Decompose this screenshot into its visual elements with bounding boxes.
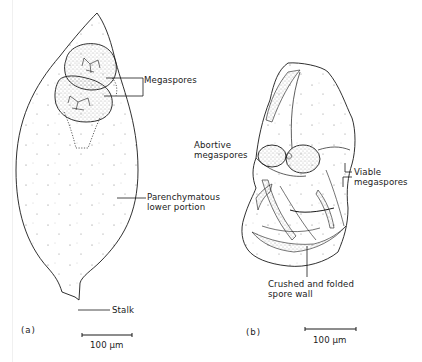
abortive-megaspore-left (258, 145, 286, 167)
label-crushed-folded-spore-wall: Crushed and folded spore wall (268, 279, 354, 299)
label-parenchymatous-lower-portion: Parenchymatous lower portion (147, 192, 220, 212)
panel-b-scale-bar (305, 327, 356, 331)
label-abortive-line1: Abortive (194, 140, 248, 150)
label-abortive-megaspores: Abortive megaspores (194, 140, 248, 160)
label-megaspores: Megaspores (144, 75, 197, 85)
panel-b-label: (b) (246, 327, 261, 337)
panel-a-drawing (16, 13, 138, 300)
label-parenchymatous-line2: lower portion (147, 202, 220, 212)
label-viable-line1: Viable (354, 167, 408, 177)
label-viable-megaspores: Viable megaspores (354, 167, 408, 187)
label-stalk-text: Stalk (112, 305, 134, 315)
abortive-megaspore-right (286, 145, 320, 173)
label-parenchymatous-line1: Parenchymatous (147, 192, 220, 202)
panel-a-label: (a) (21, 325, 36, 335)
label-crushed-line2: spore wall (268, 289, 354, 299)
label-crushed-line1: Crushed and folded (268, 279, 354, 289)
panel-a-scale-label: 100 μm (90, 340, 124, 350)
label-megaspores-text: Megaspores (144, 75, 197, 85)
label-viable-line2: megaspores (354, 177, 408, 187)
panel-b-drawing (242, 63, 355, 267)
label-stalk: Stalk (112, 305, 134, 315)
panel-a-scale-bar (82, 333, 132, 337)
label-abortive-line2: megaspores (194, 150, 248, 160)
panel-b-scale-label: 100 μm (313, 335, 347, 345)
